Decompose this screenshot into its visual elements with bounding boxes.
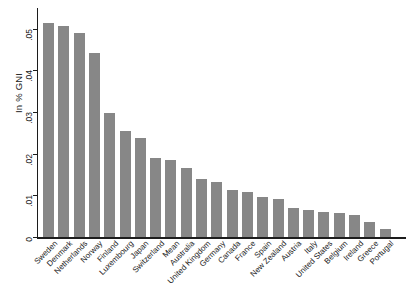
bar — [242, 192, 253, 237]
bar — [58, 26, 69, 237]
bar — [349, 215, 360, 237]
y-axis-tick-mark — [33, 70, 37, 71]
bar — [211, 182, 222, 237]
bar — [196, 179, 207, 237]
bar — [150, 158, 161, 237]
bar — [257, 197, 268, 237]
y-axis-tick-label: .05 — [24, 29, 34, 41]
y-axis-tick-mark — [33, 112, 37, 113]
y-axis-tick-label: .03 — [24, 112, 34, 124]
y-axis-tick-labels: 0.01.02.03.04.05 — [0, 0, 33, 307]
x-axis-tick-labels: SwedenDenmarkNetherlandsNorwayFinlandLux… — [38, 239, 413, 307]
bar — [165, 160, 176, 237]
y-axis-tick-mark — [33, 195, 37, 196]
bar-chart: In % GNI 0.01.02.03.04.05 SwedenDenmarkN… — [0, 0, 413, 307]
bar — [288, 208, 299, 237]
y-axis-tick-mark — [33, 237, 37, 238]
y-axis-tick: 0 — [5, 232, 29, 242]
y-axis-tick-mark — [33, 29, 37, 30]
bar — [380, 229, 391, 237]
y-axis-tick: .01 — [5, 190, 29, 200]
bar — [135, 138, 146, 238]
bar — [227, 190, 238, 237]
y-axis-tick: .04 — [5, 65, 29, 75]
y-axis-tick-label: .01 — [24, 195, 34, 207]
bar — [104, 113, 115, 237]
bar — [74, 33, 85, 237]
y-axis-tick-mark — [33, 154, 37, 155]
bar — [181, 168, 192, 237]
bar — [303, 210, 314, 237]
bar — [89, 53, 100, 237]
bar — [43, 23, 54, 237]
y-axis-tick-label: .02 — [24, 154, 34, 166]
y-axis-tick: .03 — [5, 107, 29, 117]
bar — [318, 212, 329, 237]
bar — [273, 199, 284, 237]
plot-area — [38, 8, 406, 237]
bar — [364, 222, 375, 237]
y-axis-tick-label: .04 — [24, 70, 34, 82]
y-axis-tick: .02 — [5, 149, 29, 159]
bar — [120, 131, 131, 237]
y-axis-tick: .05 — [5, 24, 29, 34]
bar — [334, 213, 345, 237]
